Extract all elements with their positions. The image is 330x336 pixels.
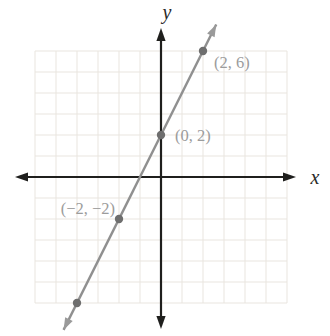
y-axis-arrow-up-icon	[156, 28, 165, 41]
graph-svg: (−2, −2)(0, 2)(2, 6)yx	[0, 0, 330, 336]
coordinate-plane-figure: (−2, −2)(0, 2)(2, 6)yx	[0, 0, 330, 336]
line-arrow-up-icon	[207, 25, 216, 38]
point-dot	[115, 215, 123, 223]
point-label: (−2, −2)	[61, 199, 115, 218]
x-axis-label: x	[310, 166, 320, 188]
point-dot	[199, 47, 207, 55]
y-axis-arrow-down-icon	[156, 316, 165, 329]
point-dot	[73, 299, 81, 307]
line-arrow-down-icon	[64, 317, 73, 330]
y-axis-label: y	[161, 1, 172, 24]
x-axis-arrow-right-icon	[283, 172, 296, 181]
point-label: (0, 2)	[175, 126, 211, 145]
point-dot	[157, 131, 165, 139]
x-axis-arrow-left-icon	[15, 172, 28, 181]
point-label: (2, 6)	[214, 53, 250, 72]
